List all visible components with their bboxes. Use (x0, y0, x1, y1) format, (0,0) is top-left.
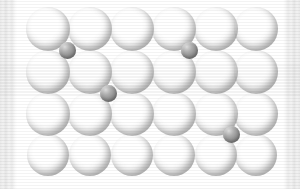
host-atom (235, 134, 277, 176)
host-atom (110, 7, 154, 51)
host-atom (153, 134, 195, 176)
host-atom (110, 50, 154, 94)
interstitial-atom (223, 126, 240, 143)
host-atom (69, 134, 111, 176)
interstitial-lattice-figure: Interstitial alloy lattice diagram Close… (0, 0, 300, 189)
host-atom (194, 7, 238, 51)
host-atom (111, 134, 153, 176)
host-atom (234, 7, 278, 51)
interstitial-atom (59, 42, 76, 59)
host-atom (68, 7, 112, 51)
host-atom (234, 50, 278, 94)
interstitial-atom (100, 85, 117, 102)
host-atom (26, 92, 70, 136)
interstitial-atom (181, 42, 198, 59)
host-atom (110, 92, 154, 136)
host-atom (194, 50, 238, 94)
host-atom (27, 134, 69, 176)
host-atom (152, 92, 196, 136)
atom-lattice (0, 0, 300, 189)
host-atom (234, 92, 278, 136)
